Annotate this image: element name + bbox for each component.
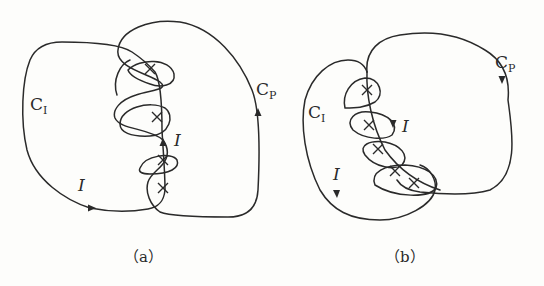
- pole-loop-a-1: [128, 61, 174, 85]
- caption-a: （a）: [124, 248, 163, 266]
- contour-ci-b: [303, 60, 435, 220]
- contour-ci-a: [23, 42, 165, 211]
- arrow-icon: [88, 205, 96, 212]
- panel-a: CI CP I I （a）: [23, 21, 277, 266]
- label-cp-a: CP: [256, 79, 277, 102]
- label-current-a-1: I: [77, 175, 85, 195]
- contour-cp-b: [367, 33, 512, 194]
- caption-b: （b）: [385, 248, 425, 266]
- arrow-icon: [333, 190, 340, 198]
- arrow-icon: [160, 138, 167, 146]
- pole-loop-a-4: [115, 60, 130, 95]
- arrow-icon: [255, 108, 262, 116]
- label-cp-b: CP: [495, 52, 516, 75]
- label-ci-a: CI: [30, 94, 47, 117]
- label-ci-b: CI: [308, 102, 325, 125]
- label-current-a-2: I: [173, 130, 181, 150]
- pole-loop-b-1: [344, 78, 380, 108]
- arrow-icon: [499, 76, 506, 84]
- panel-b: CI CP I I （b）: [303, 33, 516, 266]
- contour-diagram: CI CP I I （a） CI CP I I: [0, 0, 544, 286]
- pole-loop-b-3: [363, 142, 405, 168]
- label-current-b-1: I: [332, 164, 340, 184]
- arrow-icon: [390, 120, 397, 128]
- contour-cp-a: [114, 21, 259, 217]
- label-current-b-2: I: [401, 116, 409, 136]
